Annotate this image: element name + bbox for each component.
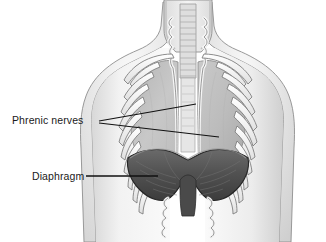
anatomy-illustration: Phrenic nerves Diaphragm (0, 0, 326, 242)
trachea-group (180, 4, 196, 152)
trachea (180, 4, 196, 78)
diaphragm-central-descent (180, 175, 196, 216)
anatomy-figure: Phrenic nerves Diaphragm (0, 0, 326, 242)
label-diaphragm: Diaphragm (32, 170, 84, 182)
mediastinum (181, 78, 195, 152)
annotation-labels: Phrenic nerves Diaphragm (12, 114, 84, 182)
label-phrenic-nerves: Phrenic nerves (12, 114, 83, 126)
